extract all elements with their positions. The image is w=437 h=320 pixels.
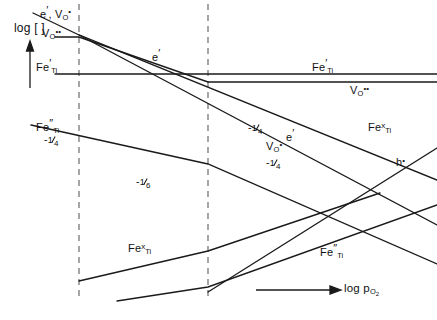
- line-VO-double-dot: [55, 37, 437, 82]
- line-h-dot: [208, 148, 437, 292]
- diagram-canvas: [0, 0, 437, 320]
- species-label-e-prime-right: e′: [286, 128, 294, 143]
- species-label-FeTi-dd-upper: Fe″Ti: [36, 118, 59, 134]
- slope-label-slope-quarter-c: -14: [266, 157, 282, 169]
- species-label-FeTi-dd-bottom: Fe″Ti: [320, 243, 343, 259]
- species-label-FeTi-prime-right: Fe′Ti: [312, 58, 333, 74]
- line-e-prime: [33, 13, 437, 180]
- species-label-VO-dd-left: VO••: [42, 28, 61, 41]
- line-FeTi-x-upper-rising: [79, 193, 380, 281]
- species-label-FeTi-prime-left: Fe′Ti: [36, 58, 57, 74]
- brouwer-diagram-figure: log [ ] log pO2 e′, VO•VO••Fe′TiFe′TiVO•…: [0, 0, 437, 320]
- slope-label-slope-quarter-b: -14: [248, 122, 264, 134]
- x-axis-label-species-sub: O2: [370, 287, 379, 296]
- y-axis-label: log [ ]: [14, 22, 45, 34]
- slope-label-slope-sixth: -16: [136, 176, 152, 188]
- species-label-FeTi-x-bottom: FexTi: [128, 243, 151, 256]
- line-FeTi-x-lower-rising: [117, 205, 437, 301]
- species-label-e-prime-VO-top: e′, VO•: [40, 5, 71, 21]
- x-axis-arrow-head: [330, 286, 341, 294]
- y-axis-arrow-head: [27, 41, 34, 51]
- x-axis-label: log pO2: [344, 283, 379, 297]
- species-label-VO-dot-mid: VO•: [266, 141, 282, 154]
- species-label-h-dot-right: h•: [396, 157, 405, 168]
- species-label-FeTi-x-right: FexTi: [368, 122, 391, 135]
- species-label-e-prime-mid: e′: [152, 48, 160, 63]
- defect-lines: [31, 13, 437, 301]
- species-label-VO-dd-right: VO••: [350, 85, 369, 98]
- x-axis-label-species: p: [363, 282, 370, 294]
- x-axis-label-prefix: log: [344, 282, 360, 294]
- slope-label-slope-quarter-a: -14: [44, 134, 60, 146]
